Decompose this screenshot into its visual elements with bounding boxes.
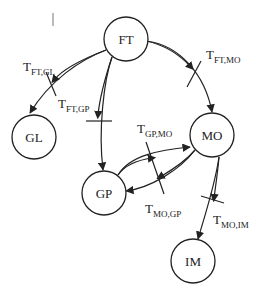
- svg-text:GL: GL: [25, 130, 42, 145]
- node-mo: MO: [190, 113, 234, 157]
- edge-ft-gp: TFT,GP: [58, 57, 112, 170]
- transition-graph: TFT,GL TFT,GP TFT,MO TGP,MO TMO,GP TMO,I…: [0, 0, 256, 298]
- label-t-mo-gp: TMO,GP: [145, 201, 181, 219]
- svg-text:IM: IM: [185, 254, 201, 269]
- svg-text:GP: GP: [96, 186, 113, 201]
- label-t-mo-im: TMO,IM: [213, 212, 249, 230]
- svg-text:FT: FT: [118, 32, 133, 47]
- node-gp: GP: [82, 171, 126, 215]
- label-t-ft-gl: TFT,GL: [23, 59, 55, 77]
- edge-gp-mo: TGP,MO: [118, 121, 190, 194]
- edge-ft-mo: TFT,MO: [146, 41, 241, 112]
- edge-mo-im: TMO,IM: [198, 157, 249, 239]
- label-t-gp-mo: TGP,MO: [137, 121, 173, 139]
- node-ft: FT: [104, 17, 148, 61]
- node-im: IM: [171, 239, 215, 283]
- label-t-ft-gp: TFT,GP: [58, 96, 90, 114]
- svg-text:MO: MO: [202, 128, 223, 143]
- node-gl: GL: [12, 115, 56, 159]
- label-t-ft-mo: TFT,MO: [206, 47, 241, 65]
